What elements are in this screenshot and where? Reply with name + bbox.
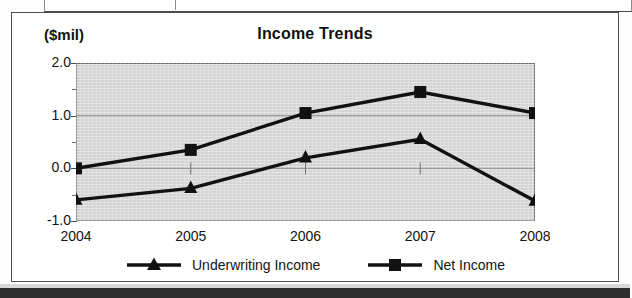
triangle-marker-icon [125,256,183,274]
datapoint-net-income-2004 [76,162,82,174]
y-axis-tick-label-2.0: 2.0 [52,54,71,70]
x-axis-tick-label-2005: 2005 [175,228,206,244]
square-marker-icon [366,256,424,274]
x-axis-tick-label-2006: 2006 [290,228,321,244]
chart-title: Income Trends [0,25,630,43]
x-axis-tick-label-2004: 2004 [60,228,91,244]
legend-item-net-income[interactable]: Net Income [366,256,505,274]
plot-area [76,63,535,221]
y-axis-tick-label-0.0: 0.0 [52,159,71,175]
document-top-table-edge [44,0,632,12]
page-bottom-bar [0,288,630,298]
chart-legend: Underwriting IncomeNet Income [0,254,630,276]
datapoint-underwriting-income-2007 [414,132,427,145]
legend-label: Net Income [433,257,505,273]
datapoint-net-income-2005 [185,144,197,156]
datapoint-net-income-2007 [414,86,426,98]
x-axis-tick-label-2008: 2008 [519,228,550,244]
x-axis-tick-label-2007: 2007 [405,228,436,244]
y-axis-tick-label--1.0: -1.0 [47,212,71,228]
y-axis-tick-label-1.0: 1.0 [52,107,71,123]
legend-label: Underwriting Income [192,257,320,273]
datapoint-net-income-2006 [300,107,312,119]
y-axis-tick-mark--1.0 [71,221,77,222]
datapoint-net-income-2008 [529,107,535,119]
legend-marker [389,259,401,271]
legend-item-underwriting-income[interactable]: Underwriting Income [125,256,320,274]
chart-svg [76,63,535,221]
